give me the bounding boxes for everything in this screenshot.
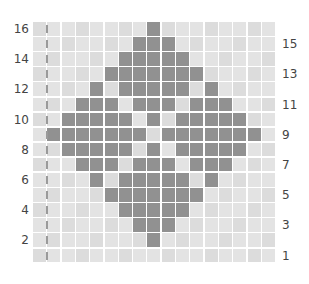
empty-cell xyxy=(62,82,75,96)
empty-cell xyxy=(219,173,232,187)
row-label: 4 xyxy=(5,203,29,217)
empty-cell xyxy=(47,22,60,36)
filled-cell xyxy=(133,203,146,217)
filled-cell xyxy=(62,143,75,157)
empty-cell xyxy=(133,233,146,247)
filled-cell xyxy=(105,98,118,112)
filled-cell xyxy=(133,98,146,112)
filled-cell xyxy=(119,143,132,157)
empty-cell xyxy=(47,98,60,112)
empty-cell xyxy=(176,98,189,112)
empty-cell xyxy=(162,22,175,36)
empty-cell xyxy=(105,233,118,247)
empty-cell xyxy=(248,37,261,51)
filled-cell xyxy=(162,52,175,66)
filled-cell xyxy=(147,218,160,232)
filled-cell xyxy=(147,113,160,127)
row-label: 3 xyxy=(282,218,306,232)
empty-cell xyxy=(233,37,246,51)
empty-cell xyxy=(76,203,89,217)
row-label: 6 xyxy=(5,173,29,187)
column-marker xyxy=(46,101,48,109)
empty-cell xyxy=(90,233,103,247)
row-label: 2 xyxy=(5,233,29,247)
empty-cell xyxy=(219,233,232,247)
empty-cell xyxy=(33,233,46,247)
empty-cell xyxy=(219,188,232,202)
empty-cell xyxy=(248,188,261,202)
empty-cell xyxy=(162,249,175,263)
empty-cell xyxy=(119,233,132,247)
empty-cell xyxy=(205,218,218,232)
empty-cell xyxy=(248,22,261,36)
empty-cell xyxy=(90,203,103,217)
filled-cell xyxy=(133,52,146,66)
filled-cell xyxy=(133,82,146,96)
empty-cell xyxy=(33,22,46,36)
empty-cell xyxy=(62,37,75,51)
filled-cell xyxy=(190,143,203,157)
filled-cell xyxy=(219,128,232,142)
empty-cell xyxy=(233,67,246,81)
empty-cell xyxy=(47,173,60,187)
filled-cell xyxy=(205,143,218,157)
empty-cell xyxy=(76,37,89,51)
empty-cell xyxy=(219,22,232,36)
filled-cell xyxy=(219,113,232,127)
filled-cell xyxy=(119,113,132,127)
empty-cell xyxy=(76,67,89,81)
filled-cell xyxy=(105,67,118,81)
filled-cell xyxy=(176,188,189,202)
filled-cell xyxy=(90,98,103,112)
column-marker xyxy=(46,70,48,78)
empty-cell xyxy=(62,98,75,112)
row-label: 1 xyxy=(282,249,306,263)
empty-cell xyxy=(262,218,275,232)
filled-cell xyxy=(119,52,132,66)
filled-cell xyxy=(62,113,75,127)
filled-cell xyxy=(76,158,89,172)
filled-cell xyxy=(133,158,146,172)
empty-cell xyxy=(162,233,175,247)
empty-cell xyxy=(76,22,89,36)
filled-cell xyxy=(162,188,175,202)
filled-cell xyxy=(90,82,103,96)
column-marker xyxy=(46,85,48,93)
filled-cell xyxy=(90,143,103,157)
empty-cell xyxy=(262,82,275,96)
empty-cell xyxy=(233,249,246,263)
row-label: 10 xyxy=(5,113,29,127)
empty-cell xyxy=(90,37,103,51)
empty-cell xyxy=(47,67,60,81)
filled-cell xyxy=(119,82,132,96)
empty-cell xyxy=(105,218,118,232)
filled-cell xyxy=(176,203,189,217)
empty-cell xyxy=(219,203,232,217)
filled-cell xyxy=(119,128,132,142)
empty-cell xyxy=(119,218,132,232)
empty-cell xyxy=(233,173,246,187)
empty-cell xyxy=(33,158,46,172)
empty-cell xyxy=(190,203,203,217)
filled-cell xyxy=(205,113,218,127)
empty-cell xyxy=(33,188,46,202)
filled-cell xyxy=(90,113,103,127)
column-marker xyxy=(46,252,48,260)
empty-cell xyxy=(262,98,275,112)
empty-cell xyxy=(47,52,60,66)
row-label: 5 xyxy=(282,188,306,202)
empty-cell xyxy=(233,98,246,112)
empty-cell xyxy=(47,218,60,232)
filled-cell xyxy=(147,82,160,96)
empty-cell xyxy=(90,188,103,202)
empty-cell xyxy=(119,158,132,172)
empty-cell xyxy=(47,203,60,217)
filled-cell xyxy=(162,37,175,51)
empty-cell xyxy=(248,249,261,263)
empty-cell xyxy=(33,143,46,157)
empty-cell xyxy=(262,22,275,36)
filled-cell xyxy=(219,143,232,157)
filled-cell xyxy=(147,143,160,157)
filled-cell xyxy=(176,52,189,66)
empty-cell xyxy=(233,188,246,202)
